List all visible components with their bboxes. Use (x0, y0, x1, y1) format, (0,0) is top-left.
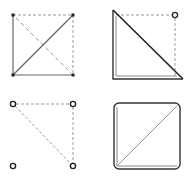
vertex-dot (12, 74, 15, 77)
open-vertex-circle (10, 101, 15, 106)
dashed-diagonal (15, 106, 71, 164)
panel-vertices-dashed-triangle (10, 101, 75, 168)
diagram-canvas (0, 0, 190, 178)
triangle-inner-edge (116, 16, 177, 76)
vertex-dot (72, 74, 75, 77)
vertex-dot (72, 14, 75, 17)
dashed-diagonal (16, 18, 71, 73)
open-vertex-circle (10, 163, 15, 168)
vertex-dot (12, 14, 15, 17)
open-vertex-circle (172, 12, 177, 17)
open-vertex-circle (70, 163, 75, 168)
triangle-hypotenuse (113, 10, 183, 79)
panel-square-with-diagonals (12, 14, 75, 77)
panel-double-edged-triangle (113, 10, 183, 79)
open-vertex-circle (70, 101, 75, 106)
square-diagonal (117, 106, 177, 166)
panel-rounded-square (114, 103, 180, 169)
